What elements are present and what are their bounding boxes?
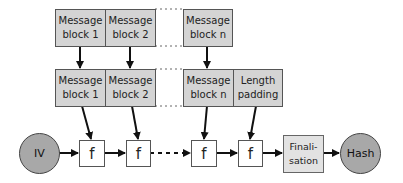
- compression-function-3: f: [191, 140, 217, 167]
- hash-label: Hash: [347, 147, 375, 160]
- input-block-1-label: Message block 1: [59, 14, 103, 42]
- length-padding-label: Length padding: [238, 74, 279, 102]
- input-block-2: Message block 2: [105, 9, 156, 47]
- f2-label: f: [136, 145, 141, 163]
- padded-block-1-label: Message block 1: [59, 74, 103, 102]
- iv-label: IV: [34, 147, 45, 160]
- f4-label: f: [248, 145, 253, 163]
- iv-node: IV: [19, 133, 60, 174]
- padded-block-n-label: Message block n: [187, 74, 231, 102]
- compression-function-1: f: [79, 140, 105, 167]
- compression-function-4: f: [238, 140, 263, 167]
- f3-label: f: [201, 145, 206, 163]
- padded-block-1: Message block 1: [55, 69, 106, 107]
- input-block-n: Message block n: [183, 9, 233, 47]
- length-padding-block: Length padding: [233, 69, 283, 107]
- finalisation-label: Finali- sation: [289, 140, 318, 168]
- f1-label: f: [89, 145, 94, 163]
- input-block-2-label: Message block 2: [109, 14, 153, 42]
- input-block-1: Message block 1: [55, 9, 106, 47]
- padded-block-2-label: Message block 2: [109, 74, 153, 102]
- padded-block-2: Message block 2: [105, 69, 156, 107]
- input-block-n-label: Message block n: [186, 14, 230, 42]
- padded-block-n: Message block n: [183, 69, 234, 107]
- compression-function-2: f: [126, 140, 151, 167]
- finalisation-box: Finali- sation: [283, 135, 324, 173]
- hash-node: Hash: [340, 133, 381, 174]
